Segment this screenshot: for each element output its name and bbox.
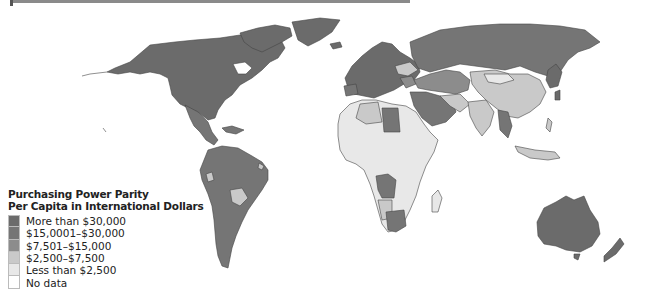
legend-title-line2: Per Capita in International Dollars <box>8 200 204 212</box>
legend-swatch <box>8 264 20 276</box>
legend-swatch <box>8 227 20 239</box>
legend-label: More than $30,000 <box>26 215 126 227</box>
legend-item-7501-15000: $7,501–$15,000 <box>8 240 204 252</box>
legend-label: No data <box>26 277 67 289</box>
legend-swatch <box>8 215 20 227</box>
legend-item-2500-7500: $2,500–$7,500 <box>8 252 204 264</box>
oceania <box>537 196 624 262</box>
asia <box>468 64 562 160</box>
legend-item-more-than-30000: More than $30,000 <box>8 215 204 227</box>
iceland <box>330 42 342 49</box>
greenland <box>292 18 340 46</box>
legend-item-less-than-2500: Less than $2,500 <box>8 264 204 276</box>
map-legend: Purchasing Power Parity Per Capita in In… <box>8 188 204 289</box>
north-america <box>82 25 292 145</box>
legend-swatch <box>8 240 20 252</box>
legend-label: $7,501–$15,000 <box>26 240 111 252</box>
legend-item-15001-30000: $15,0001–$30,000 <box>8 227 204 239</box>
legend-label: $15,0001–$30,000 <box>26 227 125 239</box>
south-america <box>200 146 268 268</box>
legend-label: Less than $2,500 <box>26 264 116 276</box>
legend-item-no-data: No data <box>8 276 204 288</box>
russia <box>410 24 600 76</box>
legend-swatch <box>8 252 20 264</box>
legend-title-line1: Purchasing Power Parity <box>8 188 204 200</box>
legend-swatch <box>8 276 20 288</box>
legend-label: $2,500–$7,500 <box>26 252 105 264</box>
legend-items: More than $30,000 $15,0001–$30,000 $7,50… <box>8 215 204 289</box>
europe <box>344 42 420 98</box>
